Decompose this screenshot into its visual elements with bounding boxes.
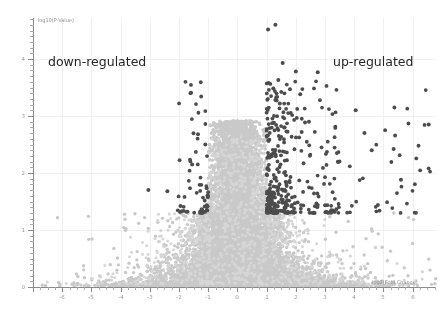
x-tick-major [121,287,122,292]
y-tick-major [28,287,34,288]
x-tick-major [237,287,238,292]
y-axis-title: -log10(P-Value) [36,17,74,23]
x-tick-label: 5 [381,294,385,300]
y-tick-minor [30,207,34,208]
x-tick-minor [376,287,377,290]
x-tick-minor [303,287,304,290]
y-tick-minor [30,133,34,134]
x-tick-label: 6 [411,294,415,300]
x-tick-minor [164,287,165,290]
x-tick-minor [201,287,202,290]
y-tick-minor [30,122,34,123]
y-tick-minor [30,224,34,225]
x-tick-label: -6 [59,294,64,300]
x-tick-minor [55,287,56,290]
x-tick-minor [347,287,348,290]
x-tick-label: -1 [205,294,210,300]
x-tick-minor [435,287,436,290]
x-tick-minor [310,287,311,290]
x-tick-label: 3 [323,294,327,300]
x-tick-minor [106,287,107,290]
y-tick-minor [30,105,34,106]
y-tick-minor [30,202,34,203]
x-tick-minor [289,287,290,290]
x-tick-minor [143,287,144,290]
y-tick-label: 0 [9,284,25,290]
x-tick-minor [99,287,100,290]
y-tick-label: 4 [9,56,25,62]
x-tick-minor [398,287,399,290]
x-tick-major [267,287,268,292]
y-tick-major [28,173,34,174]
y-tick-minor [30,93,34,94]
x-tick-major [150,287,151,292]
y-tick-label: 1 [9,227,25,233]
x-tick-label: 4 [352,294,356,300]
y-tick-minor [30,25,34,26]
y-tick-minor [30,213,34,214]
y-tick-major [28,116,34,117]
x-tick-minor [252,287,253,290]
x-tick-minor [259,287,260,290]
y-tick-minor [30,145,34,146]
x-tick-minor [362,287,363,290]
scatter-points-canvas [0,0,442,324]
down-regulated-label: down-regulated [48,54,146,69]
x-tick-label: -5 [88,294,93,300]
x-tick-label: 1 [265,294,269,300]
x-tick-minor [172,287,173,290]
x-tick-minor [194,287,195,290]
x-tick-minor [230,287,231,290]
x-tick-minor [157,287,158,290]
x-tick-minor [48,287,49,290]
volcano-plot-figure: -6-5-4-3-2-1012345601234 -log10(P-Value)… [0,0,442,324]
x-tick-label: -4 [118,294,123,300]
plot-area: -6-5-4-3-2-1012345601234 -log10(P-Value)… [0,0,442,324]
x-tick-minor [274,287,275,290]
x-tick-minor [113,287,114,290]
x-tick-minor [186,287,187,290]
y-tick-label: 3 [9,113,25,119]
y-tick-minor [30,281,34,282]
x-tick-minor [245,287,246,290]
x-tick-minor [216,287,217,290]
y-tick-minor [30,264,34,265]
x-tick-label: 0 [235,294,239,300]
y-tick-minor [30,48,34,49]
y-tick-minor [30,241,34,242]
y-tick-minor [30,253,34,254]
x-tick-minor [405,287,406,290]
x-tick-minor [281,287,282,290]
x-tick-major [296,287,297,292]
y-tick-minor [30,150,34,151]
x-tick-major [208,287,209,292]
y-tick-minor [30,167,34,168]
x-tick-minor [128,287,129,290]
x-tick-minor [70,287,71,290]
y-tick-minor [30,127,34,128]
x-tick-minor [391,287,392,290]
x-axis-title: log2(Fold Change) [372,279,418,285]
y-tick-major [28,230,34,231]
x-tick-major [179,287,180,292]
x-tick-minor [340,287,341,290]
x-tick-major [62,287,63,292]
x-tick-label: -2 [176,294,181,300]
y-tick-minor [30,42,34,43]
x-tick-minor [84,287,85,290]
x-tick-minor [223,287,224,290]
up-regulated-label: up-regulated [333,54,413,69]
x-tick-minor [369,287,370,290]
y-tick-minor [30,184,34,185]
y-tick-minor [30,162,34,163]
x-tick-minor [77,287,78,290]
x-tick-minor [427,287,428,290]
y-tick-minor [30,82,34,83]
x-tick-minor [332,287,333,290]
y-tick-minor [30,70,34,71]
y-tick-minor [30,36,34,37]
x-tick-minor [318,287,319,290]
y-tick-minor [30,247,34,248]
x-tick-minor [40,287,41,290]
x-tick-major [413,287,414,292]
